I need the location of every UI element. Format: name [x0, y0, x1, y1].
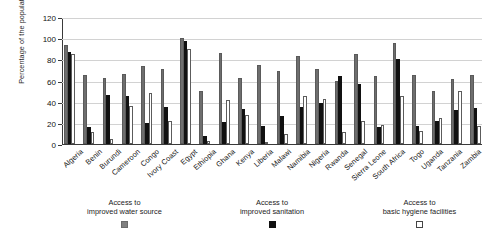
legend-label-line2: improved sanitation: [210, 207, 335, 216]
bar-group: [122, 18, 133, 144]
bar-group: [451, 18, 462, 144]
bar-group: [141, 18, 152, 144]
legend-item: Access tobasic hygiene facilities: [357, 198, 482, 230]
black-square-icon: [269, 221, 276, 228]
bar-hygiene: [91, 132, 95, 144]
x-axis-line: [62, 144, 482, 145]
y-axis-tick-label: 100: [43, 35, 56, 44]
bar-hygiene: [245, 115, 249, 144]
bar-group: [335, 18, 346, 144]
bar-sanitation: [106, 95, 110, 144]
bar-hygiene: [265, 142, 269, 144]
bar-group: [103, 18, 114, 144]
bar-hygiene: [110, 139, 114, 144]
bar-group: [277, 18, 288, 144]
bar-group: [412, 18, 423, 144]
legend-swatch-wrap: [210, 217, 335, 230]
y-axis-tick: [58, 60, 62, 61]
bar-group: [257, 18, 268, 144]
y-axis-tick: [58, 103, 62, 104]
x-axis-label: Kenya: [234, 147, 256, 168]
white-square-icon: [416, 221, 423, 228]
bar-hygiene: [400, 96, 404, 144]
bar-group: [354, 18, 365, 144]
bar-group: [64, 18, 75, 144]
chart-legend: Access toimproved water sourceAccess toi…: [62, 198, 482, 230]
bar-hygiene: [439, 118, 443, 144]
x-axis-label: Ghana: [214, 147, 237, 169]
x-axis-labels: AlgeriaBeninBurundiCameroonCongoIvory Co…: [62, 147, 482, 195]
bar-group: [470, 18, 481, 144]
bar-group: [296, 18, 307, 144]
plot-area: 020406080100120: [62, 18, 482, 145]
bar-hygiene: [207, 141, 211, 144]
bar-hygiene: [149, 93, 153, 144]
bar-hygiene: [129, 106, 133, 144]
y-axis-tick: [58, 124, 62, 125]
y-axis-tick-label: 40: [47, 98, 56, 107]
bar-group: [199, 18, 210, 144]
bar-hygiene: [419, 131, 423, 144]
y-axis-title: Percentage of the population: [17, 0, 26, 102]
bar-group: [180, 18, 191, 144]
legend-item: Access toimproved sanitation: [210, 198, 335, 230]
bar-groups: [63, 18, 482, 144]
bar-group: [315, 18, 326, 144]
y-axis-tick: [58, 39, 62, 40]
bar-group: [238, 18, 249, 144]
legend-item: Access toimproved water source: [62, 198, 187, 230]
bar-hygiene: [284, 134, 288, 144]
y-axis-tick-label: 80: [47, 56, 56, 65]
bar-group: [219, 18, 230, 144]
bar-hygiene: [381, 125, 385, 144]
y-axis-tick: [58, 82, 62, 83]
bar-hygiene: [226, 100, 230, 144]
bar-group: [374, 18, 385, 144]
bar-group: [393, 18, 404, 144]
bar-hygiene: [71, 54, 75, 144]
legend-label-line2: improved water source: [62, 207, 187, 216]
bar-group: [83, 18, 94, 144]
y-axis-tick-label: 120: [43, 14, 56, 23]
bar-hygiene: [477, 126, 481, 144]
y-axis-tick-label: 20: [47, 119, 56, 128]
legend-swatch-wrap: [62, 217, 187, 230]
y-axis-tick: [58, 18, 62, 19]
legend-label-line1: Access to: [210, 198, 335, 207]
bar-group: [432, 18, 443, 144]
bar-chart: Percentage of the population 02040608010…: [0, 0, 496, 250]
bar-hygiene: [458, 91, 462, 144]
bar-hygiene: [342, 132, 346, 144]
bar-hygiene: [303, 96, 307, 144]
y-axis-tick-label: 0: [52, 141, 56, 150]
x-axis-label: Algeria: [62, 147, 86, 170]
bar-hygiene: [168, 121, 172, 144]
bar-hygiene: [323, 99, 327, 145]
legend-label-line2: basic hygiene facilities: [357, 207, 482, 216]
gray-square-icon: [121, 221, 128, 228]
legend-label-line1: Access to: [62, 198, 187, 207]
legend-label-line1: Access to: [357, 198, 482, 207]
y-axis-tick-label: 60: [47, 77, 56, 86]
bar-group: [161, 18, 172, 144]
y-axis-tick: [58, 145, 62, 146]
legend-swatch-wrap: [357, 217, 482, 230]
bar-hygiene: [187, 49, 191, 144]
bar-hygiene: [361, 121, 365, 144]
